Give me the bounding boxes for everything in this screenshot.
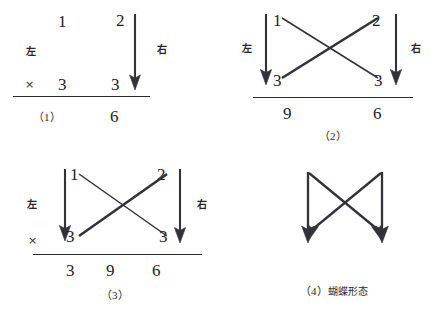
panel-3-horizontal-rule — [33, 254, 202, 255]
panel-3-label-left: 左 — [27, 200, 37, 210]
panel-1-result-0: 6 — [110, 108, 119, 125]
panel-3-result-0: 3 — [66, 262, 75, 279]
panel-4-caption-cjk-text: 蝴蝶形态 — [328, 286, 368, 297]
panel-2-bottom-digit-left: 3 — [273, 72, 282, 89]
panel-3-caption: （3） — [101, 290, 129, 301]
panel-2-horizontal-rule — [253, 97, 413, 98]
panel-2-result-0: 9 — [283, 105, 292, 122]
panel-1-top-digit-right: 2 — [116, 12, 125, 29]
panel-3-bottom-digit-right: 3 — [159, 228, 168, 245]
panel-2-caption: （2） — [319, 131, 347, 142]
panel-3-bottom-digit-left: 3 — [66, 228, 75, 245]
panel-1-times-symbol: × — [25, 79, 34, 90]
panel-3-times-symbol: × — [28, 235, 37, 246]
panel-2-bottom-digit-right: 3 — [374, 72, 383, 89]
panel-3: 左 × 1 2 3 3 右 3 9 6 （3） — [0, 155, 240, 322]
panel-1-caption: （1） — [33, 112, 61, 123]
panel-2-right-down-arrow — [387, 12, 413, 90]
panel-2-cross-lines — [274, 15, 389, 85]
panel-1-right-down-arrow — [125, 12, 155, 92]
panel-4: （4）蝴蝶形态 — [250, 155, 442, 322]
panel-1-horizontal-rule — [13, 96, 150, 97]
panel-3-result-2: 6 — [152, 262, 161, 279]
panel-4-caption: （4）蝴蝶形态 — [300, 286, 368, 297]
panel-2-result-1: 6 — [373, 105, 382, 122]
panel-1-bottom-digit-right: 3 — [111, 76, 120, 93]
panel-4-caption-prefix: （4） — [300, 285, 328, 297]
panel-4-butterfly-shape — [290, 168, 420, 268]
panel-3-label-right: 右 — [197, 200, 207, 210]
panel-1-bottom-digit-left: 3 — [58, 76, 67, 93]
panel-3-right-down-arrow — [171, 167, 197, 247]
panel-1-top-digit-left: 1 — [58, 13, 67, 30]
panel-1: 1 2 左 右 × 3 3 （1） 6 — [0, 0, 221, 150]
panel-1-label-left: 左 — [26, 47, 36, 57]
panel-3-result-1: 9 — [106, 262, 115, 279]
panel-2-label-left: 左 — [242, 44, 252, 54]
panel-2: 1 2 左 右 3 3 9 6 （2） — [221, 0, 442, 155]
panel-1-label-right: 右 — [157, 45, 167, 55]
